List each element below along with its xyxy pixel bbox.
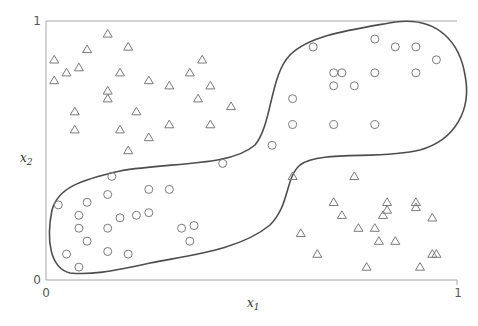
circle-marker bbox=[54, 201, 62, 209]
triangle-marker bbox=[227, 102, 236, 110]
triangle-marker bbox=[206, 120, 215, 128]
triangle-marker bbox=[198, 55, 207, 63]
triangle-marker bbox=[165, 81, 174, 89]
circle-marker bbox=[75, 263, 83, 271]
circle-marker bbox=[186, 237, 194, 245]
circle-marker bbox=[145, 185, 153, 193]
circle-marker bbox=[132, 211, 140, 219]
circle-marker bbox=[75, 211, 83, 219]
triangle-marker bbox=[50, 55, 59, 63]
triangle-marker bbox=[124, 42, 133, 50]
circle-marker bbox=[124, 250, 132, 258]
triangle-marker bbox=[337, 211, 346, 219]
circle-marker bbox=[432, 56, 440, 64]
triangle-marker bbox=[411, 198, 420, 206]
triangle-marker bbox=[74, 63, 83, 71]
circle-marker bbox=[391, 43, 399, 51]
circle-marker bbox=[190, 222, 198, 230]
triangle-marker bbox=[70, 107, 79, 115]
triangle-marker bbox=[132, 107, 141, 115]
triangle-marker bbox=[103, 30, 112, 38]
circle-marker bbox=[104, 224, 112, 232]
circle-marker bbox=[371, 35, 379, 43]
circle-marker bbox=[412, 69, 420, 77]
triangle-marker bbox=[62, 68, 71, 76]
triangle-marker bbox=[165, 120, 174, 128]
circle-marker bbox=[75, 224, 83, 232]
triangle-marker bbox=[362, 263, 371, 271]
triangle-marker bbox=[194, 94, 203, 102]
triangle-marker bbox=[103, 86, 112, 94]
triangle-marker bbox=[329, 198, 338, 206]
circle-marker bbox=[330, 69, 338, 77]
triangle-marker bbox=[383, 198, 392, 206]
x-tick-min: 0 bbox=[42, 286, 50, 300]
circle-marker bbox=[371, 121, 379, 129]
triangle-marker bbox=[116, 68, 125, 76]
circle-marker bbox=[289, 121, 297, 129]
y-tick-max: 1 bbox=[33, 14, 41, 28]
triangle-marker bbox=[370, 224, 379, 232]
triangle-marker bbox=[296, 229, 305, 237]
circle-marker bbox=[165, 185, 173, 193]
triangle-marker bbox=[83, 45, 92, 53]
circle-marker bbox=[104, 191, 112, 199]
triangle-marker bbox=[354, 224, 363, 232]
circle-marker bbox=[83, 198, 91, 206]
circle-marker bbox=[83, 237, 91, 245]
circle-marker bbox=[268, 141, 276, 149]
triangle-marker bbox=[313, 250, 322, 258]
circle-marker bbox=[116, 214, 124, 222]
triangle-marker bbox=[70, 125, 79, 133]
x-axis-label: x1 bbox=[247, 296, 260, 312]
circle-marker bbox=[330, 82, 338, 90]
circle-marker bbox=[350, 82, 358, 90]
triangle-marker bbox=[144, 133, 153, 141]
triangle-marker bbox=[116, 125, 125, 133]
circle-marker bbox=[104, 248, 112, 256]
triangle-marker bbox=[50, 76, 59, 84]
circle-marker bbox=[145, 209, 153, 217]
triangle-marker bbox=[350, 172, 359, 180]
scatter-chart: 1 0 0 1 x1 x2 bbox=[0, 0, 478, 326]
circle-marker bbox=[219, 159, 227, 167]
triangle-marker bbox=[103, 94, 112, 102]
triangle-marker bbox=[124, 146, 133, 154]
circle-marker bbox=[338, 69, 346, 77]
circle-marker bbox=[289, 95, 297, 103]
triangle-marker bbox=[391, 237, 400, 245]
triangle-marker bbox=[206, 81, 215, 89]
x-tick-max: 1 bbox=[454, 286, 462, 300]
circle-marker bbox=[330, 121, 338, 129]
y-tick-min: 0 bbox=[33, 273, 41, 287]
triangle-marker bbox=[416, 263, 425, 271]
y-axis-label: x2 bbox=[20, 151, 33, 167]
circle-marker bbox=[371, 69, 379, 77]
triangle-marker bbox=[428, 213, 437, 221]
triangle-marker bbox=[185, 68, 194, 76]
triangle-marker bbox=[374, 237, 383, 245]
circle-marker bbox=[309, 43, 317, 51]
decision-boundary-curve bbox=[49, 21, 466, 273]
data-points-layer bbox=[50, 30, 441, 272]
circle-marker bbox=[412, 43, 420, 51]
triangle-marker bbox=[144, 76, 153, 84]
circle-marker bbox=[63, 250, 71, 258]
circle-marker bbox=[178, 224, 186, 232]
